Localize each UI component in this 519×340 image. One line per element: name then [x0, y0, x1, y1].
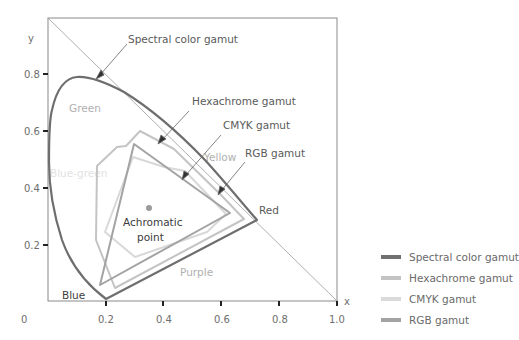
y-ticks: [43, 74, 48, 245]
annotation-hexachrome: Hexachrome gamut: [192, 95, 296, 107]
legend-swatch-hexachrome: [381, 276, 401, 280]
achromatic-point-marker: [146, 205, 152, 211]
legend-label: Hexachrome gamut: [409, 272, 513, 284]
legend-label: RGB gamut: [409, 314, 469, 326]
legend-label: Spectral color gamut: [409, 251, 519, 263]
x-tick-label: 1.0: [329, 314, 345, 325]
annotation-rgb: RGB gamut: [245, 147, 305, 159]
region-label-yellow: Yellow: [203, 151, 237, 163]
x-tick-label: 0.8: [272, 314, 288, 325]
diagonal-line: [48, 18, 337, 301]
x-tick-label: 0: [21, 314, 27, 325]
x-axis-label: x: [344, 296, 350, 307]
region-label-red: Red: [259, 204, 279, 216]
legend-label: CMYK gamut: [409, 293, 476, 305]
achromatic-label-line1: Achromatic: [123, 216, 183, 228]
legend-swatch-rgb: [381, 318, 401, 322]
legend: Spectral color gamut Hexachrome gamut CM…: [381, 246, 519, 330]
y-tick-label: 0.4: [24, 183, 40, 194]
x-tick-label: 0.2: [98, 314, 114, 325]
annotation-cmyk: CMYK gamut: [223, 119, 290, 131]
legend-item-cmyk: CMYK gamut: [381, 288, 519, 309]
y-axis-label: y: [28, 33, 34, 44]
x-tick-label: 0.6: [214, 314, 230, 325]
legend-item-spectral: Spectral color gamut: [381, 246, 519, 267]
legend-swatch-spectral: [381, 255, 401, 259]
y-tick-label: 0.2: [24, 240, 40, 251]
legend-item-hexachrome: Hexachrome gamut: [381, 267, 519, 288]
region-label-purple: Purple: [180, 266, 213, 278]
region-label-blue-green: Blue-green: [50, 167, 107, 179]
region-label-blue: Blue: [62, 289, 85, 301]
cmyk-gamut-polygon: [105, 157, 226, 257]
annotation-spectral: Spectral color gamut: [128, 33, 238, 45]
legend-item-rgb: RGB gamut: [381, 309, 519, 330]
x-ticks: [106, 301, 337, 306]
achromatic-label-line2: point: [137, 231, 164, 243]
y-tick-label: 0.6: [24, 126, 40, 137]
region-label-green: Green: [69, 102, 101, 114]
legend-swatch-cmyk: [381, 297, 401, 301]
x-tick-label: 0.4: [156, 314, 172, 325]
y-tick-label: 0.8: [24, 69, 40, 80]
